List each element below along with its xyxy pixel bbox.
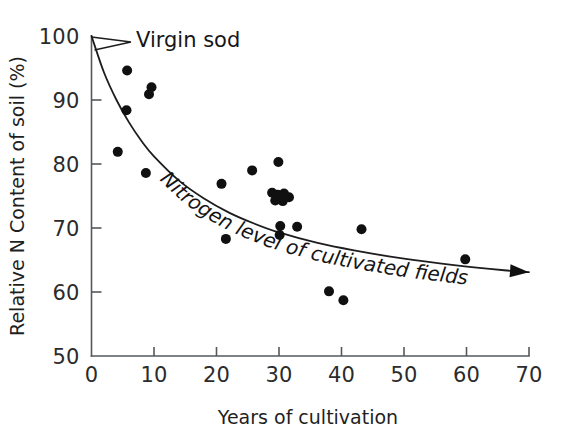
x-axis-ticks: 010203040506070: [85, 347, 543, 387]
chart-figure: 010203040506070 5060708090100 Virgin sod…: [0, 0, 566, 440]
curve-label-group: Nitrogen level of cultivated fields: [154, 166, 504, 289]
data-point: [275, 221, 285, 231]
curve-label: Nitrogen level of cultivated fields: [156, 166, 470, 289]
scatter-plot-canvas: 010203040506070 5060708090100 Virgin sod…: [0, 0, 566, 440]
y-tick-label: 80: [52, 153, 79, 177]
x-tick-label: 10: [140, 363, 167, 387]
y-tick-label: 100: [39, 25, 80, 49]
virgin-sod-annotation: Virgin sod: [92, 28, 241, 52]
y-tick-label: 60: [52, 281, 79, 305]
data-point: [292, 222, 302, 232]
x-tick-label: 20: [203, 363, 230, 387]
x-tick-label: 30: [265, 363, 292, 387]
x-tick-label: 40: [328, 363, 355, 387]
x-tick-label: 70: [515, 363, 542, 387]
data-point: [144, 89, 154, 99]
y-axis-title: Relative N Content of soil (%): [6, 56, 28, 336]
nitrogen-decline-curve: [92, 36, 530, 272]
axes-group: [92, 36, 530, 356]
y-tick-label: 90: [52, 89, 79, 113]
curve-arrowhead-icon: [510, 264, 529, 277]
data-point: [273, 157, 283, 167]
virgin-sod-label: Virgin sod: [136, 28, 240, 52]
data-point: [284, 192, 294, 202]
data-point: [217, 179, 227, 189]
y-tick-label: 70: [52, 217, 79, 241]
data-point: [122, 105, 132, 115]
data-point: [141, 168, 151, 178]
data-point: [122, 66, 132, 76]
data-point: [357, 224, 367, 234]
x-tick-label: 50: [390, 363, 417, 387]
data-point: [247, 165, 257, 175]
data-point: [324, 286, 334, 296]
y-tick-label: 50: [52, 345, 79, 369]
data-point: [338, 295, 348, 305]
data-point: [113, 147, 123, 157]
x-tick-label: 60: [453, 363, 480, 387]
x-tick-label: 0: [85, 363, 99, 387]
virgin-sod-leader-line: [92, 37, 132, 50]
x-axis-title: Years of cultivation: [217, 406, 398, 428]
data-point: [460, 254, 470, 264]
